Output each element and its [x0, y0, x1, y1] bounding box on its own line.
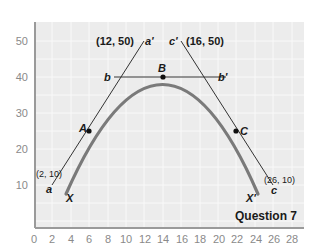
- label-coord-16-50: (16, 50): [186, 35, 224, 47]
- x-tick-12: 12: [139, 233, 151, 245]
- label-a-prime: a': [145, 35, 154, 47]
- x-tick-24: 24: [250, 233, 262, 245]
- y-tick-40: 40: [16, 71, 28, 83]
- x-tick-18: 18: [194, 233, 206, 245]
- label-b-prime: b': [218, 71, 228, 83]
- y-tick-labels: 50 40 30 20 10: [16, 35, 28, 191]
- label-c-point: C: [240, 125, 249, 137]
- x-tick-16: 16: [176, 233, 188, 245]
- y-tick-30: 30: [16, 107, 28, 119]
- x-tick-14: 14: [157, 233, 169, 245]
- chart: 50 40 30 20 10 0 2 4 6 8 10 12 14 16 18 …: [0, 0, 320, 251]
- x-tick-26: 26: [268, 233, 280, 245]
- point-c: [233, 128, 238, 133]
- x-tick-6: 6: [86, 233, 92, 245]
- point-b: [160, 74, 165, 79]
- x-tick-20: 20: [213, 233, 225, 245]
- label-c: c: [271, 184, 277, 196]
- x-tick-10: 10: [120, 233, 132, 245]
- x-tick-2: 2: [49, 233, 55, 245]
- label-x-prime: X': [245, 192, 256, 204]
- label-b-point: B: [158, 62, 166, 74]
- label-c-prime: c': [169, 35, 178, 47]
- label-coord-26-10: (26, 10): [264, 175, 295, 185]
- label-coord-12-50: (12, 50): [96, 35, 134, 47]
- x-tick-8: 8: [105, 233, 111, 245]
- x-tick-22: 22: [231, 233, 243, 245]
- x-tick-28: 28: [286, 233, 298, 245]
- label-coord-2-10: (2, 10): [36, 169, 62, 179]
- label-x: X: [65, 192, 74, 204]
- label-a-point: A: [78, 122, 87, 134]
- label-b: b: [104, 71, 111, 83]
- y-tick-20: 20: [16, 143, 28, 155]
- label-a: a: [46, 183, 52, 195]
- plot-area: [35, 22, 304, 228]
- x-tick-labels: 0 2 4 6 8 10 12 14 16 18 20 22 24 26 28: [31, 233, 298, 245]
- question-label: Question 7: [235, 209, 297, 223]
- point-a: [86, 128, 91, 133]
- y-tick-50: 50: [16, 35, 28, 47]
- y-tick-10: 10: [16, 179, 28, 191]
- x-tick-4: 4: [68, 233, 74, 245]
- x-tick-0: 0: [31, 233, 37, 245]
